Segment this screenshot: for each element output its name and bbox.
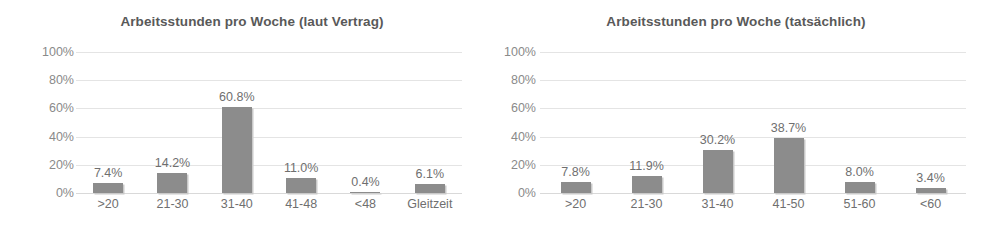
y-axis-tick-label: 60%: [49, 101, 74, 115]
y-axis-tick-label: 80%: [511, 73, 536, 87]
x-axis-category-label: 41-48: [269, 197, 333, 219]
gridline: [76, 193, 462, 194]
bar[interactable]: 30.2%: [703, 150, 733, 193]
bar[interactable]: 6.1%: [415, 184, 445, 193]
y-axis-tick-label: 20%: [511, 158, 536, 172]
bar[interactable]: 7.4%: [93, 183, 123, 193]
bar-slot: 38.7%: [753, 52, 824, 193]
x-axis-category-label: <60: [895, 197, 966, 219]
bar[interactable]: 14.2%: [157, 173, 187, 193]
chart-actual-hours: Arbeitsstunden pro Woche (tatsächlich) 0…: [470, 0, 982, 230]
bar-slot: 11.0%: [269, 52, 333, 193]
y-axis-tick-label: 20%: [49, 158, 74, 172]
bar[interactable]: 8.0%: [845, 182, 875, 193]
bar[interactable]: 60.8%: [222, 107, 252, 193]
x-axis-labels: >2021-3031-4041-5051-60<60: [540, 197, 966, 219]
bar-slot: 11.9%: [611, 52, 682, 193]
bar-value-label: 11.9%: [629, 159, 664, 173]
bar-slot: 3.4%: [895, 52, 966, 193]
bar-series: 7.4%14.2%60.8%11.0%0.4%6.1%: [76, 52, 462, 193]
y-axis-tick-label: 60%: [511, 101, 536, 115]
bar-series: 7.8%11.9%30.2%38.7%8.0%3.4%: [540, 52, 966, 193]
bar-slot: 60.8%: [205, 52, 269, 193]
bar-value-label: 8.0%: [845, 165, 874, 179]
bar-slot: 14.2%: [140, 52, 204, 193]
bar-slot: 0.4%: [333, 52, 397, 193]
x-axis-labels: >2021-3031-4041-48<48Gleitzeit: [76, 197, 462, 219]
y-axis-tick-label: 0%: [518, 186, 536, 200]
y-axis-tick-label: 40%: [511, 130, 536, 144]
bar-slot: 6.1%: [398, 52, 462, 193]
x-axis-category-label: 31-40: [205, 197, 269, 219]
bar-value-label: 7.8%: [561, 165, 590, 179]
y-axis-tick-label: 0%: [56, 186, 74, 200]
bar-value-label: 60.8%: [219, 90, 254, 104]
bar-slot: 7.8%: [540, 52, 611, 193]
x-axis-category-label: 21-30: [140, 197, 204, 219]
bar-value-label: 7.4%: [94, 166, 123, 180]
chart-title: Arbeitsstunden pro Woche (tatsächlich): [470, 14, 982, 29]
bar-value-label: 11.0%: [284, 161, 319, 175]
x-axis-category-label: >20: [540, 197, 611, 219]
bar-value-label: 38.7%: [771, 121, 806, 135]
x-axis-category-label: Gleitzeit: [398, 197, 462, 219]
bar-slot: 8.0%: [824, 52, 895, 193]
chart-contracted-hours: Arbeitsstunden pro Woche (laut Vertrag) …: [0, 0, 470, 230]
bar[interactable]: 7.8%: [561, 182, 591, 193]
y-axis-tick-label: 40%: [49, 130, 74, 144]
chart-title: Arbeitsstunden pro Woche (laut Vertrag): [0, 14, 470, 29]
y-axis-labels: 0%20%40%60%80%100%: [16, 52, 74, 193]
bar-value-label: 30.2%: [700, 133, 735, 147]
bar[interactable]: 0.4%: [350, 192, 380, 193]
x-axis-category-label: >20: [76, 197, 140, 219]
x-axis-category-label: 31-40: [682, 197, 753, 219]
bar-value-label: 0.4%: [351, 175, 380, 189]
charts-row: Arbeitsstunden pro Woche (laut Vertrag) …: [0, 0, 982, 230]
bar[interactable]: 11.0%: [286, 178, 316, 194]
y-axis-tick-label: 80%: [49, 73, 74, 87]
bar-slot: 30.2%: [682, 52, 753, 193]
x-axis-category-label: <48: [333, 197, 397, 219]
plot-area: 7.4%14.2%60.8%11.0%0.4%6.1%: [76, 52, 462, 193]
x-axis-category-label: 51-60: [824, 197, 895, 219]
gridline: [540, 193, 966, 194]
bar-value-label: 14.2%: [155, 156, 190, 170]
bar-value-label: 6.1%: [416, 167, 445, 181]
y-axis-labels: 0%20%40%60%80%100%: [478, 52, 536, 193]
bar[interactable]: 38.7%: [774, 138, 804, 193]
bar[interactable]: 3.4%: [916, 188, 946, 193]
y-axis-tick-label: 100%: [504, 45, 536, 59]
bar-value-label: 3.4%: [916, 171, 945, 185]
x-axis-category-label: 21-30: [611, 197, 682, 219]
y-axis-tick-label: 100%: [42, 45, 74, 59]
bar-slot: 7.4%: [76, 52, 140, 193]
x-axis-category-label: 41-50: [753, 197, 824, 219]
bar[interactable]: 11.9%: [632, 176, 662, 193]
plot-area: 7.8%11.9%30.2%38.7%8.0%3.4%: [540, 52, 966, 193]
